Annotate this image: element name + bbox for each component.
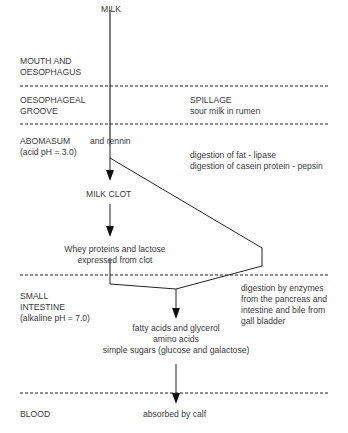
zone-blood-label: BLOOD — [20, 409, 50, 420]
arrow-head-icon — [172, 393, 180, 404]
absorbed-label: absorbed by calf — [143, 409, 206, 420]
milk-label: MILK — [101, 4, 121, 15]
milk-clot-label: MILK CLOT — [86, 189, 131, 200]
zone-groove-label: OESOPHAGEALGROOVE — [20, 95, 85, 117]
arrow-head-icon — [172, 308, 180, 319]
rennin-label: and rennin — [90, 136, 131, 147]
spillage-note: SPILLAGEsour milk in rumen — [190, 95, 260, 117]
zone-intestine-label: SMALLINTESTINE(alkaline pH = 7.0) — [20, 291, 90, 324]
zone-abomasum-label: ABOMASUM(acid pH = 3.0) — [20, 136, 77, 158]
arrow-head-icon — [106, 226, 114, 237]
products-label: fatty acids and glycerolamino acidssimpl… — [96, 323, 256, 356]
bypass-line — [110, 158, 262, 289]
intestine-digestion-note: digestion by enzymesfrom the pancreas an… — [241, 283, 327, 327]
whey-label: Whey proteins and lactoseexpressed from … — [55, 244, 175, 266]
arrow-head-icon — [106, 170, 114, 181]
abomasum-digestion-note: digestion of fat - lipasedigestion of ca… — [190, 150, 323, 172]
zone-mouth-label: MOUTH ANDOESOPHAGUS — [20, 56, 81, 78]
